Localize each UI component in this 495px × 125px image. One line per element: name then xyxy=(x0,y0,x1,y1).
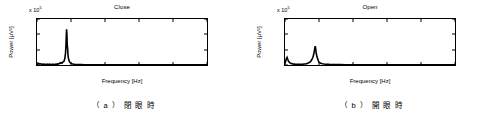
caption-open: （ b ） 開 眼 時 xyxy=(248,100,495,111)
x-tick-mark xyxy=(421,19,422,22)
caption-close: （ a ） 閉 眼 時 xyxy=(0,100,247,111)
x-axis-title-close: Frequency [Hz] xyxy=(36,78,208,85)
y-tick-mark xyxy=(37,49,40,50)
x-tick-mark xyxy=(285,19,286,22)
x-tick-mark xyxy=(455,19,456,22)
y-axis-exponent-mantissa: x 10 xyxy=(277,7,287,13)
y-tick-mark xyxy=(37,34,40,35)
panel-open: Open x 105 Power [μV²] 0246 01020304050 … xyxy=(248,0,495,125)
plot-open: Open x 105 Power [μV²] 0246 01020304050 … xyxy=(248,0,495,95)
spectrum-curve-close xyxy=(37,19,207,65)
x-tick-mark xyxy=(139,62,140,65)
x-tick-mark xyxy=(71,19,72,22)
y-axis-exponent-power: 5 xyxy=(287,5,289,10)
y-axis-title-close: Power [μV²] xyxy=(6,18,16,66)
x-tick-mark xyxy=(139,19,140,22)
y-axis-title-open: Power [μV²] xyxy=(254,18,264,66)
x-tick-mark xyxy=(37,62,38,65)
x-tick-mark xyxy=(105,62,106,65)
x-tick-mark xyxy=(353,62,354,65)
x-tick-mark xyxy=(37,19,38,22)
y-tick-mark xyxy=(204,34,207,35)
x-axis-title-open: Frequency [Hz] xyxy=(284,78,456,85)
y-axis-exponent-close: x 105 xyxy=(29,7,42,13)
y-axis-exponent-mantissa: x 10 xyxy=(29,7,39,13)
x-tick-mark xyxy=(173,62,174,65)
x-tick-mark xyxy=(387,62,388,65)
panel-close: Close x 105 Power [μV²] 0246 01020304050… xyxy=(0,0,247,125)
y-tick-mark xyxy=(285,34,288,35)
x-tick-mark xyxy=(285,62,286,65)
x-tick-mark xyxy=(387,19,388,22)
y-tick-mark xyxy=(452,49,455,50)
plot-title-open: Open xyxy=(284,4,456,11)
x-tick-mark xyxy=(105,19,106,22)
x-tick-mark xyxy=(319,19,320,22)
x-tick-mark xyxy=(207,62,208,65)
plot-title-close: Close xyxy=(36,4,208,11)
x-tick-mark xyxy=(421,62,422,65)
x-tick-mark xyxy=(319,62,320,65)
x-tick-mark xyxy=(353,19,354,22)
x-tick-mark xyxy=(207,19,208,22)
spectrum-curve-open xyxy=(285,19,455,65)
y-tick-mark xyxy=(452,34,455,35)
x-tick-mark xyxy=(173,19,174,22)
y-axis-exponent-open: x 105 xyxy=(277,7,290,13)
axes-close: 0246 01020304050 xyxy=(36,18,208,66)
y-tick-mark xyxy=(285,49,288,50)
y-axis-exponent-power: 5 xyxy=(39,5,41,10)
x-tick-mark xyxy=(71,62,72,65)
x-tick-mark xyxy=(455,62,456,65)
y-tick-mark xyxy=(204,49,207,50)
plot-close: Close x 105 Power [μV²] 0246 01020304050… xyxy=(0,0,247,95)
axes-open: 0246 01020304050 xyxy=(284,18,456,66)
figure-eeg-power-spectra: Close x 105 Power [μV²] 0246 01020304050… xyxy=(0,0,495,125)
